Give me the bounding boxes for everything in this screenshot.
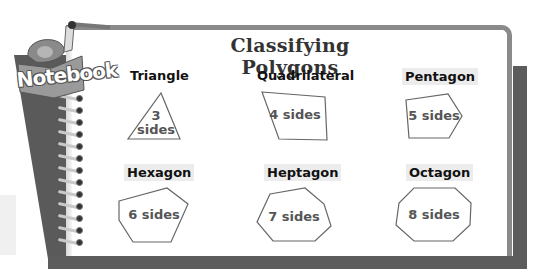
polygon-name: Heptagon (264, 164, 341, 181)
spiral-coil-icon (58, 214, 86, 222)
quadrilateral-shape: 4 sides (261, 91, 329, 141)
sides-label: 5 sides (405, 109, 463, 123)
spiral-coil-icon (58, 190, 86, 198)
pentagon-shape: 5 sides (405, 93, 463, 139)
notebook-right-edge (513, 66, 527, 269)
spiral-coil-icon (58, 202, 86, 210)
sides-label: 6 sides (118, 208, 190, 222)
notebook-bottom-edge (48, 256, 524, 269)
triangle-shape: 3 sides (127, 92, 181, 140)
sides-label: 7 sides (256, 210, 332, 224)
spiral-coil-icon (58, 154, 86, 162)
polygon-name: Triangle (130, 68, 189, 83)
polygon-name: Quadrilateral (257, 68, 354, 83)
sides-label: 4 sides (261, 108, 329, 122)
spiral-coil-icon (58, 142, 86, 150)
polygon-name: Octagon (406, 164, 473, 181)
heptagon-shape: 7 sides (256, 187, 332, 242)
spiral-coil-icon (58, 238, 86, 246)
spiral-coil-icon (58, 118, 86, 126)
octagon-shape: 8 sides (395, 187, 473, 242)
polygon-name: Pentagon (402, 68, 478, 85)
hexagon-shape: 6 sides (118, 187, 190, 243)
spiral-coil-icon (58, 226, 86, 234)
polygon-name: Hexagon (124, 164, 194, 181)
spiral-binding (58, 82, 88, 256)
sides-count: 3 (131, 109, 181, 123)
notebook-logo: Notebook (0, 8, 110, 98)
spiral-coil-icon (58, 178, 86, 186)
sides-word: sides (131, 123, 181, 137)
sides-label: 8 sides (395, 208, 473, 222)
spiral-coil-icon (58, 106, 86, 114)
left-shade (0, 195, 16, 255)
spiral-coil-icon (58, 130, 86, 138)
spiral-coil-icon (58, 166, 86, 174)
